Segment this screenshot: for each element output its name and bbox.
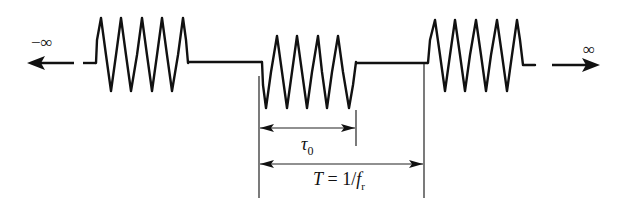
pulse-width-label: τ0	[301, 134, 313, 159]
tau-subscript: 0	[307, 144, 313, 158]
right-infinity-label: ∞	[583, 40, 595, 60]
burst-center	[262, 36, 356, 108]
left-infinity-arrow-icon	[27, 56, 74, 70]
left-infinity-label: −∞	[31, 33, 53, 53]
burst-left	[96, 18, 188, 91]
right-infinity-arrow-icon	[552, 58, 600, 72]
frequency-subscript: r	[361, 180, 365, 192]
burst-right	[428, 20, 535, 91]
period-label: T = 1/fr	[313, 169, 365, 192]
period-symbol: T	[313, 169, 323, 189]
pulse-train-diagram	[0, 0, 622, 211]
period-equals: = 1/	[323, 169, 356, 189]
